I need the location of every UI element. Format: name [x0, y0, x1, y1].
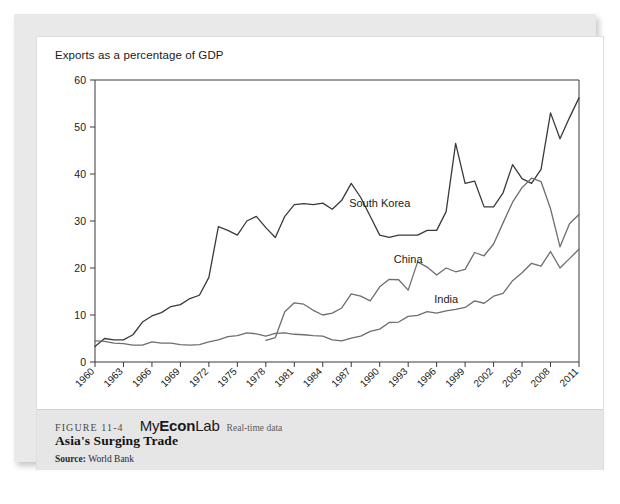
realtime-data-label: Real-time data	[227, 423, 283, 433]
y-tick-label: 60	[74, 74, 86, 86]
x-tick-label: 1966	[130, 365, 154, 389]
series-line-south-korea	[95, 98, 579, 347]
x-tick-label: 1978	[244, 365, 268, 389]
y-tick-label: 30	[74, 215, 86, 227]
x-tick-label: 1990	[358, 365, 382, 389]
line-chart: 0102030405060196019631966196919721975197…	[37, 37, 603, 409]
figure-caption: FIGURE 11-4 MyEconLab Real-time data Asi…	[37, 409, 603, 470]
x-tick-label: 1996	[415, 365, 439, 389]
brand-part-lab: Lab	[195, 417, 219, 434]
x-tick-label: 1981	[272, 365, 296, 389]
figure-mount: Exports as a percentage of GDP 010203040…	[14, 14, 596, 462]
x-tick-label: 1984	[301, 365, 325, 389]
y-tick-label: 0	[80, 356, 86, 368]
brand-part-econ: Econ	[159, 417, 195, 434]
x-tick-label: 1963	[101, 365, 125, 389]
figure-page: Exports as a percentage of GDP 010203040…	[0, 0, 620, 504]
series-line-india	[95, 249, 579, 345]
figure-number: FIGURE 11-4	[55, 422, 124, 433]
x-tick-label: 1972	[187, 365, 211, 389]
brand-part-my: My	[140, 417, 160, 434]
y-tick-label: 20	[74, 262, 86, 274]
y-tick-label: 10	[74, 309, 86, 321]
plot-frame	[95, 80, 579, 362]
x-tick-label: 2011	[557, 365, 580, 388]
x-tick-label: 1969	[158, 365, 182, 389]
figure-card: Exports as a percentage of GDP 010203040…	[36, 36, 604, 470]
x-tick-label: 1999	[443, 365, 467, 389]
series-label-india: India	[434, 293, 459, 305]
series-label-china: China	[394, 253, 424, 265]
myeconlab-logo: MyEconLab	[140, 417, 220, 434]
figure-title: Asia's Surging Trade	[55, 433, 178, 449]
x-tick-label: 2008	[528, 365, 552, 389]
caption-top-row: FIGURE 11-4 MyEconLab Real-time data	[55, 417, 282, 434]
x-tick-label: 1960	[73, 365, 97, 389]
x-tick-label: 1987	[329, 365, 353, 389]
source-value: World Bank	[88, 454, 134, 464]
chart-area: Exports as a percentage of GDP 010203040…	[37, 37, 603, 409]
x-tick-label: 1993	[386, 365, 410, 389]
series-label-south-korea: South Korea	[349, 197, 411, 209]
figure-source: Source: World Bank	[55, 454, 134, 464]
x-tick-label: 2005	[500, 365, 524, 389]
x-tick-label: 2002	[471, 365, 495, 389]
x-tick-label: 1975	[215, 365, 239, 389]
source-label: Source:	[55, 454, 86, 464]
y-tick-label: 40	[74, 168, 86, 180]
y-tick-label: 50	[74, 121, 86, 133]
